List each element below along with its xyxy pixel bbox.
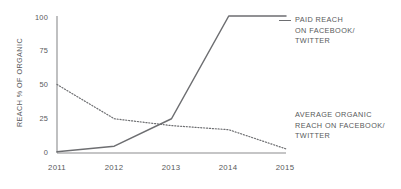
legend-label-organic-reach: AVERAGE ORGANIC REACH ON FACEBOOK/ TWITT…: [295, 110, 385, 142]
x-tick-label-2011: 2011: [35, 163, 79, 172]
legend-organic-line-3: TWITTER: [295, 131, 385, 142]
x-tick-label-2012: 2012: [92, 163, 136, 172]
legend-marker-paid-reach: [279, 20, 291, 21]
x-tick-label-2015: 2015: [263, 163, 307, 172]
x-tick-label-2014: 2014: [206, 163, 250, 172]
legend-label-paid-reach: PAID REACH ON FACEBOOK/ TWITTER: [295, 15, 355, 47]
legend-paid-line-1: PAID REACH: [295, 15, 355, 26]
line-chart: REACH % OF ORGANIC 100 75 50 25 0 2011 2…: [0, 0, 401, 189]
x-tick-label-2013: 2013: [149, 163, 193, 172]
legend-paid-line-3: TWITTER: [295, 36, 355, 47]
series-line-organic-reach: [57, 85, 286, 149]
legend-organic-line-1: AVERAGE ORGANIC: [295, 110, 385, 121]
series-line-paid-reach: [57, 16, 286, 152]
legend-organic-line-2: REACH ON FACEBOOK/: [295, 121, 385, 132]
legend-paid-line-2: ON FACEBOOK/: [295, 26, 355, 37]
